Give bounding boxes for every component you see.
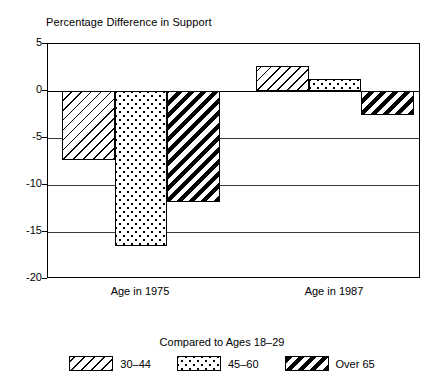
chart-title: Percentage Difference in Support bbox=[46, 16, 212, 28]
legend-item: 45–60 bbox=[177, 356, 259, 371]
y-axis-tick-label: -20 bbox=[8, 272, 42, 283]
chart-container: Percentage Difference in Support Compare… bbox=[0, 0, 444, 382]
gridline--10 bbox=[48, 185, 419, 186]
bar bbox=[167, 91, 220, 202]
legend-title: Compared to Ages 18–29 bbox=[0, 336, 444, 348]
y-axis-tick-mark bbox=[42, 184, 47, 185]
legend-item: 30–44 bbox=[69, 356, 151, 371]
y-axis-tick-mark bbox=[42, 43, 47, 44]
plot-area bbox=[47, 43, 420, 278]
legend-label: 45–60 bbox=[228, 358, 259, 370]
y-axis-tick-label: -10 bbox=[8, 178, 42, 189]
legend: 30–4445–60Over 65 bbox=[0, 356, 444, 371]
y-axis-tick-label: 0 bbox=[8, 84, 42, 95]
y-axis-tick-mark bbox=[42, 231, 47, 232]
bar bbox=[361, 91, 414, 115]
x-axis-group-label: Age in 1975 bbox=[80, 285, 200, 297]
legend-swatch-hatch-thin bbox=[69, 356, 113, 371]
y-axis-tick-label: 5 bbox=[8, 37, 42, 48]
legend-swatch-dots bbox=[177, 356, 221, 371]
legend-item: Over 65 bbox=[285, 356, 375, 371]
bar bbox=[309, 79, 361, 91]
y-axis-tick-mark bbox=[42, 278, 47, 279]
y-axis-tick-label: -5 bbox=[8, 131, 42, 142]
bar bbox=[115, 91, 167, 246]
legend-swatch-hatch-bold bbox=[285, 356, 329, 371]
y-axis-tick-mark bbox=[42, 137, 47, 138]
legend-label: Over 65 bbox=[336, 358, 375, 370]
legend-label: 30–44 bbox=[120, 358, 151, 370]
bar bbox=[62, 91, 115, 160]
x-axis-group-label: Age in 1987 bbox=[274, 285, 394, 297]
y-axis-tick-mark bbox=[42, 90, 47, 91]
y-axis-tick-label: -15 bbox=[8, 225, 42, 236]
bar bbox=[256, 66, 309, 91]
gridline--15 bbox=[48, 232, 419, 233]
